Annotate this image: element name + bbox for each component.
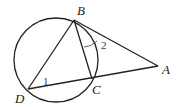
angle-label-1: 1 (43, 75, 49, 87)
circle (14, 18, 98, 102)
geometry-diagram: B A C D 1 2 (0, 0, 176, 107)
angle-label-2: 2 (101, 39, 107, 51)
label-B: B (77, 3, 85, 18)
label-D: D (14, 91, 25, 106)
label-C: C (92, 82, 101, 97)
label-A: A (161, 62, 170, 77)
segment-BD (28, 20, 74, 89)
